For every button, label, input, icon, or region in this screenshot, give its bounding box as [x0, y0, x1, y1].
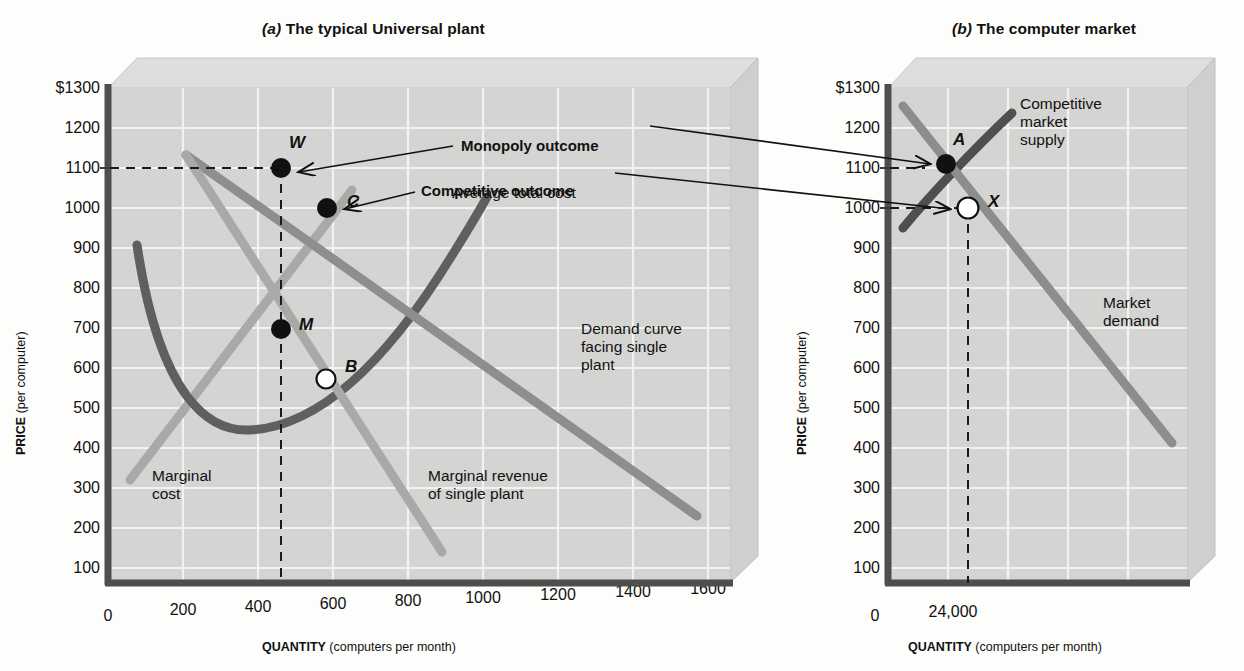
panel-b-point-X[interactable] — [958, 198, 979, 219]
panel-a-point-W[interactable] — [271, 158, 291, 178]
panel-a-label-demand-curve: Demand curve facing single plant — [581, 320, 682, 373]
panel-b-box-top-face — [888, 58, 1215, 88]
panel-a-label-marginal-cost: Marginal cost — [152, 467, 211, 503]
panel-a-box-top-face — [108, 58, 758, 88]
panel-a-point-M[interactable] — [271, 319, 291, 339]
callout-label-monopoly-outcome: Monopoly outcome — [461, 137, 599, 154]
panel-a-point-B[interactable] — [317, 370, 336, 389]
panel-a-point-C[interactable] — [317, 198, 337, 218]
callout-label-competitive-outcome: Competitive outcome — [421, 182, 574, 199]
panel-b-plot-face — [888, 88, 1187, 583]
panel-b-box-right-face — [1187, 58, 1215, 583]
panel-a-label-marginal-revenue: Marginal revenue of single plant — [428, 467, 548, 503]
panel-a-point-label-W: W — [289, 133, 305, 153]
panel-a-point-label-B: B — [345, 357, 357, 377]
panel-b-label-market-demand: Market demand — [1103, 294, 1159, 330]
panel-b-point-A[interactable] — [936, 154, 956, 174]
panel-a-point-label-M: M — [299, 315, 313, 335]
panel-b-point-label-X: X — [988, 192, 999, 212]
panel-b-point-label-A: A — [953, 130, 965, 150]
panel-a-point-label-C: C — [347, 192, 359, 212]
panel-b-label-competitive-market-supply: Competitive market supply — [1020, 95, 1102, 148]
